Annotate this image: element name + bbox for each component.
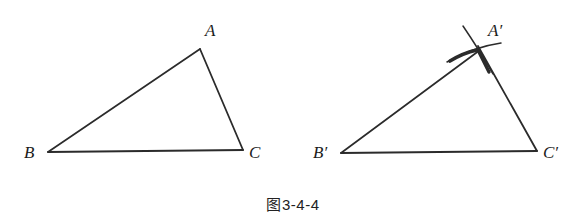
vertex-label-b-prime: B′: [313, 144, 327, 161]
edge-b-prime-c-prime: [341, 151, 537, 153]
edge-ca: [200, 49, 243, 150]
vertex-label-a-prime: A′: [488, 22, 502, 39]
vertex-label-c-prime: C′: [543, 144, 558, 161]
caption-prefix: 图: [266, 196, 282, 213]
edge-bc: [48, 150, 243, 152]
edge-a-prime-b-prime: [341, 50, 480, 153]
vertex-label-b: B: [24, 144, 34, 161]
triangle-abc: [48, 49, 243, 152]
edge-c-prime-a-prime: [478, 46, 537, 151]
vertex-label-a: A: [205, 22, 215, 39]
vertex-label-c: C: [249, 144, 260, 161]
edge-ab: [48, 49, 200, 152]
figure-caption: 图3-4-4: [0, 193, 586, 214]
caption-number: 3-4-4: [282, 196, 320, 213]
figure-container: A B C A′ B′ C′ 图3-4-4: [0, 0, 586, 223]
triangle-a-prime-b-prime-c-prime: [341, 46, 537, 153]
